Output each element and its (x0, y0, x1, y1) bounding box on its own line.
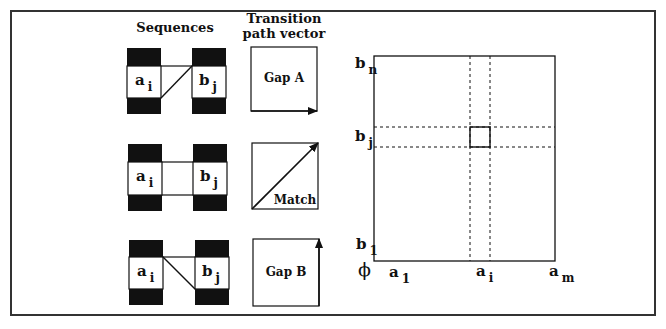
gap-b-label: Gap B (253, 265, 319, 279)
y-label-b1: b1 (356, 237, 378, 259)
match-label: Match (270, 193, 320, 207)
x-label-ai: ai (476, 264, 493, 286)
y-label-bj: bj (355, 129, 373, 151)
origin-phi: ϕ (358, 262, 371, 277)
row2-seq-a-label: ai (136, 169, 153, 191)
x-label-am: am (549, 264, 574, 286)
row2-seq-b-label: bj (200, 169, 218, 191)
alignment-matrix (374, 56, 555, 261)
x-label-a1: a1 (389, 265, 410, 287)
row1-seq-a-label: ai (135, 73, 152, 95)
row3-seq-a-label: ai (137, 264, 154, 286)
gap-a-label: Gap A (251, 71, 317, 85)
row3-seq-b-label: bj (202, 264, 220, 286)
row1-seq-b-label: bj (199, 73, 217, 95)
y-label-bn: bn (355, 56, 377, 78)
